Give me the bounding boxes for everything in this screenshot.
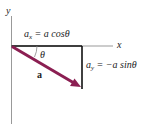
y-component-label: ay = −a sinθ	[86, 60, 137, 72]
x-axis-label: x	[117, 40, 121, 50]
y-component-rhs: = −a sinθ	[97, 59, 137, 70]
x-component-rhs: = a cosθ	[35, 28, 70, 39]
y-axis-label: y	[6, 6, 10, 16]
y-component-sub: y	[91, 64, 94, 72]
x-component-sub: x	[29, 33, 32, 41]
x-component-label: ax = a cosθ	[24, 29, 70, 41]
vector-a-label: a	[37, 70, 42, 80]
angle-theta-label: θ	[40, 50, 45, 60]
angle-arc	[35, 46, 38, 57]
